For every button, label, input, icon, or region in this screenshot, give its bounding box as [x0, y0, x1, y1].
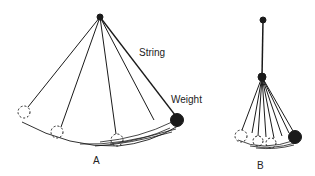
string-label: String [139, 47, 165, 58]
weight-label: Weight [171, 94, 202, 105]
mid-pivot-b [258, 73, 266, 81]
upper-string-b [262, 20, 263, 77]
panel-b [235, 17, 302, 149]
string-a-1 [28, 17, 100, 107]
top-pivot-b [260, 17, 266, 23]
ghost-weight-a-1 [18, 106, 30, 118]
panel-b-label: B [257, 160, 264, 171]
pendulum-diagram [0, 0, 315, 176]
panel-a-label: A [93, 155, 100, 166]
weight-a [171, 114, 184, 127]
panel-a [18, 14, 184, 146]
pivot-a [97, 14, 103, 20]
weight-b [289, 131, 302, 144]
ghost-weight-b-1 [235, 130, 247, 142]
